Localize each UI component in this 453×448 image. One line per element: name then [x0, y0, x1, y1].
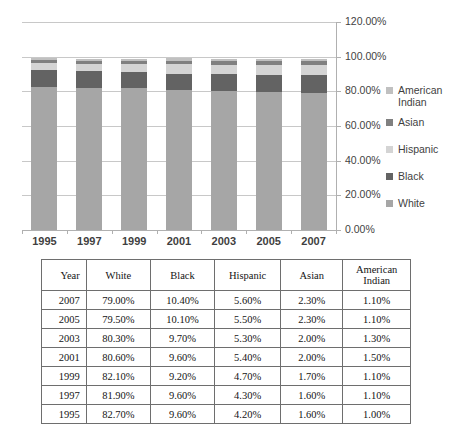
- table-header-black: Black: [150, 260, 214, 291]
- x-axis-tick: [201, 230, 202, 234]
- table-cell-white: 80.60%: [86, 348, 150, 367]
- x-axis-line: [22, 230, 337, 231]
- y-axis-tick: [336, 161, 341, 162]
- table-cell-year: 1999: [42, 367, 87, 386]
- legend-label: American Indian: [398, 84, 450, 108]
- table-header-white: White: [86, 260, 150, 291]
- y-axis-tick: [336, 91, 341, 92]
- x-axis-label-2007: 2007: [284, 236, 344, 247]
- table-cell-asian: 2.00%: [281, 348, 343, 367]
- table-cell-asian: 1.60%: [281, 386, 343, 405]
- table-row: 200579.50%10.10%5.50%2.30%1.10%: [42, 310, 411, 329]
- table-cell-asian: 1.60%: [281, 405, 343, 424]
- table-cell-white: 82.10%: [86, 367, 150, 386]
- bar-2007: [301, 59, 327, 230]
- bar-segment-hispanic: [166, 64, 192, 73]
- legend-item-asian[interactable]: Asian: [386, 116, 450, 128]
- y-axis-label: 0.00%: [345, 224, 375, 235]
- bar-segment-black: [301, 75, 327, 93]
- table-row: 199582.70%9.60%4.20%1.60%1.00%: [42, 405, 411, 424]
- table-cell-black: 9.70%: [150, 329, 214, 348]
- legend-label: Hispanic: [398, 143, 450, 155]
- legend-swatch-icon: [386, 173, 393, 180]
- table-cell-year: 2003: [42, 329, 87, 348]
- table-cell-asian: 1.70%: [281, 367, 343, 386]
- bar-segment-black: [211, 74, 237, 91]
- bar-1997: [76, 59, 102, 230]
- gridline-120: [22, 22, 336, 23]
- table-cell-black: 9.60%: [150, 386, 214, 405]
- bar-segment-black: [76, 71, 102, 88]
- table-header-row: YearWhiteBlackHispanicAsianAmerican Indi…: [42, 260, 411, 291]
- y-axis-label: 100.00%: [345, 51, 386, 62]
- bar-1995: [31, 58, 57, 230]
- legend-label: Black: [398, 170, 450, 182]
- stacked-bar-chart: 120.00%100.00%80.00%60.00%40.00%20.00%0.…: [0, 0, 453, 256]
- x-axis-tick: [336, 230, 337, 234]
- bar-segment-hispanic: [256, 65, 282, 75]
- table-cell-american-indian: 1.10%: [343, 367, 411, 386]
- table-cell-american-indian: 1.10%: [343, 386, 411, 405]
- legend-item-black[interactable]: Black: [386, 170, 450, 182]
- table-cell-white: 81.90%: [86, 386, 150, 405]
- legend-item-american-indian[interactable]: American Indian: [386, 84, 450, 108]
- bar-segment-white: [301, 93, 327, 230]
- table-cell-white: 80.30%: [86, 329, 150, 348]
- table-header-asian: Asian: [281, 260, 343, 291]
- table-cell-black: 9.60%: [150, 405, 214, 424]
- legend-item-hispanic[interactable]: Hispanic: [386, 143, 450, 155]
- bar-segment-black: [31, 70, 57, 87]
- table-cell-year: 2005: [42, 310, 87, 329]
- table-cell-black: 10.40%: [150, 291, 214, 310]
- bar-segment-black: [256, 75, 282, 93]
- table-cell-black: 9.20%: [150, 367, 214, 386]
- table-cell-hispanic: 4.70%: [215, 367, 281, 386]
- bar-segment-white: [121, 88, 147, 230]
- legend-swatch-icon: [386, 200, 393, 207]
- table-cell-asian: 2.00%: [281, 329, 343, 348]
- data-table: YearWhiteBlackHispanicAsianAmerican Indi…: [41, 259, 411, 424]
- table-cell-black: 9.60%: [150, 348, 214, 367]
- table-header-year: Year: [42, 260, 87, 291]
- table-cell-white: 79.50%: [86, 310, 150, 329]
- y-axis-label: 20.00%: [345, 189, 381, 200]
- table-body: 200779.00%10.40%5.60%2.30%1.10%200579.50…: [42, 291, 411, 424]
- bar-segment-black: [166, 74, 192, 91]
- table-cell-year: 1997: [42, 386, 87, 405]
- y-axis-tick: [336, 22, 341, 23]
- table-cell-hispanic: 5.30%: [215, 329, 281, 348]
- table-cell-hispanic: 4.20%: [215, 405, 281, 424]
- y-axis-label: 120.00%: [345, 16, 386, 27]
- legend-swatch-icon: [386, 87, 393, 94]
- bar-segment-black: [121, 72, 147, 88]
- bar-2001: [166, 58, 192, 230]
- bar-segment-hispanic: [301, 65, 327, 75]
- table-cell-american-indian: 1.30%: [343, 329, 411, 348]
- table-row: 199781.90%9.60%4.30%1.60%1.10%: [42, 386, 411, 405]
- legend-label: Asian: [398, 116, 450, 128]
- bar-segment-hispanic: [31, 63, 57, 70]
- table-cell-hispanic: 4.30%: [215, 386, 281, 405]
- bar-2005: [256, 59, 282, 230]
- table-cell-hispanic: 5.50%: [215, 310, 281, 329]
- bar-2003: [211, 59, 237, 230]
- bar-segment-white: [76, 88, 102, 230]
- data-table-container: YearWhiteBlackHispanicAsianAmerican Indi…: [41, 259, 411, 424]
- legend-item-white[interactable]: White: [386, 197, 450, 209]
- x-axis-tick: [22, 230, 23, 234]
- table-cell-hispanic: 5.40%: [215, 348, 281, 367]
- bar-segment-white: [31, 87, 57, 230]
- y-axis-label: 40.00%: [345, 155, 381, 166]
- x-axis-tick: [67, 230, 68, 234]
- table-header-hispanic: Hispanic: [215, 260, 281, 291]
- bar-segment-hispanic: [76, 64, 102, 71]
- table-row: 200380.30%9.70%5.30%2.00%1.30%: [42, 329, 411, 348]
- table-cell-american-indian: 1.10%: [343, 291, 411, 310]
- x-axis-tick: [112, 230, 113, 234]
- bar-segment-white: [166, 90, 192, 230]
- table-cell-asian: 2.30%: [281, 310, 343, 329]
- x-axis-tick: [157, 230, 158, 234]
- table-header: YearWhiteBlackHispanicAsianAmerican Indi…: [42, 260, 411, 291]
- y-axis-tick: [336, 195, 341, 196]
- table-cell-hispanic: 5.60%: [215, 291, 281, 310]
